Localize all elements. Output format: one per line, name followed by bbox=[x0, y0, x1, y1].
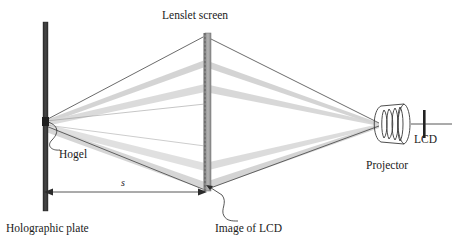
ray-screen-top-to-projector bbox=[205, 36, 379, 123]
figure-holographic-printer: Lenslet screen Hogel Holographic plate I… bbox=[0, 0, 454, 245]
label-holographic-plate: Holographic plate bbox=[6, 223, 89, 235]
label-lcd: LCD bbox=[414, 134, 437, 146]
light-beams bbox=[46, 60, 379, 190]
projector-body bbox=[381, 104, 410, 144]
label-distance-s: s bbox=[121, 178, 125, 188]
beam-lower-outer bbox=[46, 125, 379, 190]
label-projector: Projector bbox=[366, 160, 408, 172]
dimension-s bbox=[44, 189, 207, 196]
projector bbox=[374, 104, 410, 144]
label-image-of-lcd: Image of LCD bbox=[215, 223, 282, 235]
label-lenslet-screen: Lenslet screen bbox=[162, 10, 228, 22]
lens-element-1 bbox=[382, 110, 387, 138]
holographic-plate bbox=[43, 22, 48, 211]
label-hogel: Hogel bbox=[59, 149, 87, 161]
diagram-canvas bbox=[0, 0, 454, 245]
lenslet-screen bbox=[203, 33, 211, 191]
hogel-marker bbox=[42, 117, 49, 126]
lens-element-4 bbox=[398, 107, 403, 141]
